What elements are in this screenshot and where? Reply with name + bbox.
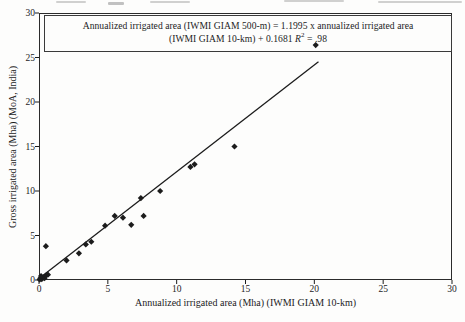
scatter-point bbox=[138, 195, 144, 201]
x-tick-label: 20 bbox=[303, 283, 325, 295]
scatter-point bbox=[231, 143, 237, 149]
x-tick-label: 5 bbox=[97, 283, 119, 295]
x-tick-label: 15 bbox=[235, 283, 257, 295]
data-points-layer bbox=[37, 42, 319, 283]
scatter-point bbox=[102, 223, 108, 229]
scatter-plot-canvas bbox=[0, 0, 465, 322]
scatter-plot-figure: Annualized irrigated area (IWMI GIAM 500… bbox=[0, 0, 465, 322]
trend-line bbox=[39, 62, 318, 279]
scatter-point bbox=[83, 241, 89, 247]
scatter-point bbox=[128, 222, 134, 228]
trend-line-layer bbox=[39, 62, 318, 279]
y-axis-title: Gross irrigated area (Mha) (MoA, India) bbox=[7, 3, 21, 291]
x-tick-label: 10 bbox=[166, 283, 188, 295]
scatter-point bbox=[313, 42, 319, 48]
scatter-point bbox=[43, 243, 49, 249]
scatter-point bbox=[141, 213, 147, 219]
scatter-point bbox=[157, 188, 163, 194]
axis-ticks bbox=[35, 13, 452, 284]
x-tick-label: 30 bbox=[441, 283, 463, 295]
x-axis-title: Annualized irrigated area (Mha) (IWMI GI… bbox=[39, 297, 452, 308]
scatter-point bbox=[76, 250, 82, 256]
x-tick-label: 25 bbox=[372, 283, 394, 295]
